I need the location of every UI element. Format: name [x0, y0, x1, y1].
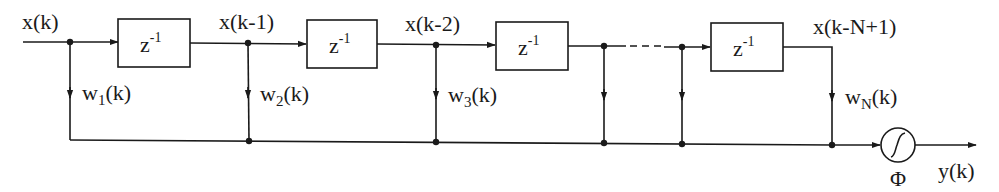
- delay-block-1: z-1: [118, 19, 190, 67]
- weight-label-2: w2(k): [260, 81, 309, 109]
- input-label: x(k): [22, 9, 59, 34]
- weight-label-N: wN(k): [845, 84, 897, 112]
- fir-neuron-diagram: z-1 z-1 z-1 z-1: [0, 0, 999, 192]
- tap-label-N: x(k-N+1): [813, 14, 896, 39]
- sigmoid-icon: [881, 128, 915, 162]
- nonlinearity-label: Φ: [890, 166, 906, 191]
- summing-bus: [70, 140, 976, 145]
- delay-block-4: z-1: [711, 23, 783, 71]
- wire-d4-out: [783, 47, 832, 145]
- tap-label-1: x(k-1): [219, 9, 274, 34]
- tap-label-2: x(k-2): [405, 11, 460, 36]
- delay-block-2: z-1: [307, 20, 377, 68]
- weight-label-1: w1(k): [82, 80, 131, 108]
- output-label: y(k): [938, 158, 975, 183]
- delay-block-3: z-1: [496, 22, 568, 70]
- weight-label-3: w3(k): [448, 82, 497, 110]
